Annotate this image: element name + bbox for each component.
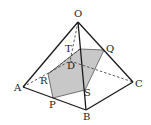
- label-d: D: [67, 61, 75, 71]
- label-s: S: [84, 88, 91, 98]
- cross-section: [48, 49, 104, 98]
- label-r: R: [40, 76, 48, 86]
- label-o: O: [74, 9, 82, 19]
- label-p: P: [49, 100, 56, 110]
- label-b: B: [83, 112, 90, 122]
- label-c: C: [135, 79, 143, 89]
- label-q: Q: [106, 44, 114, 54]
- label-a: A: [14, 83, 21, 93]
- pyramid-diagram: O A B C D P Q R S T: [0, 0, 151, 125]
- label-t: T: [65, 44, 72, 54]
